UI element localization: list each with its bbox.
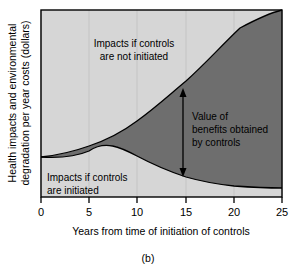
chart-svg: Impacts if controls are not initiated Im… — [0, 0, 297, 274]
x-tick-label-25: 25 — [276, 206, 288, 218]
x-axis-tick-labels: 0 5 10 15 20 25 — [38, 206, 288, 218]
y-axis-title-line2: degradation per year costs (dollars) — [19, 20, 31, 185]
benefits-line2: benefits obtained — [192, 124, 268, 135]
x-tick-label-20: 20 — [228, 206, 240, 218]
x-tick-label-15: 15 — [180, 206, 192, 218]
impacts-initiated-line1: Impacts if controls — [47, 172, 128, 183]
x-tick-label-5: 5 — [86, 206, 92, 218]
impacts-initiated-line2: are initiated — [47, 185, 99, 196]
figure-container: Impacts if controls are not initiated Im… — [0, 0, 297, 274]
impacts-not-initiated-line1: Impacts if controls — [94, 38, 175, 49]
x-tick-label-0: 0 — [38, 206, 44, 218]
x-axis-title: Years from time of initiation of control… — [72, 225, 250, 237]
benefits-line1: Value of — [192, 111, 228, 122]
impacts-not-initiated-line2: are not initiated — [100, 51, 168, 62]
x-axis-ticks — [41, 197, 282, 203]
figure-caption: (b) — [142, 252, 155, 264]
y-axis-title-line1: Health impacts and environmental — [6, 24, 18, 183]
y-axis-title: Health impacts and environmental degrada… — [6, 20, 31, 185]
benefits-line3: by controls — [192, 137, 240, 148]
x-tick-label-10: 10 — [131, 206, 143, 218]
